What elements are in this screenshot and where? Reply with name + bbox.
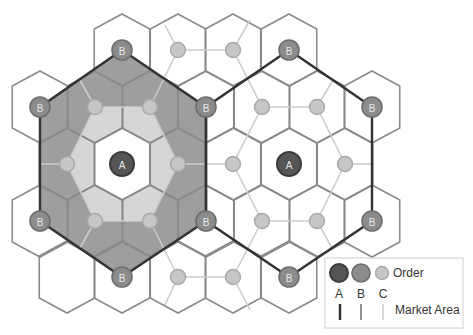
order-b-circle: B (279, 40, 299, 60)
order-c-circle (226, 43, 241, 58)
legend-level-b: B (357, 287, 365, 301)
order-b-circle: B (112, 40, 132, 60)
svg-text:B: B (119, 273, 126, 284)
svg-text:B: B (37, 103, 44, 114)
svg-text:B: B (37, 217, 44, 228)
central-place-diagram: AABBBBBBBBBB Order A B C Market Area (0, 0, 473, 335)
legend-market-area-label: Market Area (395, 303, 460, 317)
order-c-circle (310, 214, 325, 229)
order-c-circle (60, 157, 75, 172)
market-area-c-line (233, 164, 262, 221)
order-b-circle: B (279, 267, 299, 287)
order-c-circle (143, 214, 158, 229)
order-c-circle (255, 214, 270, 229)
legend: Order A B C Market Area (325, 258, 463, 328)
legend-order-b-icon (352, 264, 370, 282)
order-c-circle (171, 270, 186, 285)
legend-order-a-icon (330, 264, 348, 282)
order-c-circle (226, 157, 241, 172)
legend-level-c: C (379, 287, 388, 301)
order-c-circle (88, 100, 103, 115)
svg-text:B: B (369, 103, 376, 114)
order-c-circle (88, 214, 103, 229)
market-area-c-line (317, 107, 345, 164)
svg-text:B: B (286, 273, 293, 284)
order-c-circle (171, 157, 186, 172)
order-b-circle: B (196, 97, 216, 117)
legend-level-a: A (335, 287, 343, 301)
legend-order-label: Order (393, 266, 424, 280)
order-c-circle (171, 43, 186, 58)
order-a-circle: A (110, 152, 134, 176)
order-a-circle: A (277, 152, 301, 176)
order-b-circle: B (362, 97, 382, 117)
order-b-circle: B (30, 97, 50, 117)
svg-text:B: B (119, 46, 126, 57)
order-c-circle (310, 100, 325, 115)
svg-text:B: B (203, 217, 210, 228)
svg-text:A: A (286, 160, 293, 171)
svg-text:B: B (369, 217, 376, 228)
legend-order-c-icon (376, 267, 389, 280)
order-b-circle: B (362, 211, 382, 231)
market-area-c-line (317, 164, 345, 221)
order-b-circle: B (30, 211, 50, 231)
market-area-c-line (233, 107, 262, 164)
order-c-circle (338, 157, 353, 172)
svg-text:B: B (286, 46, 293, 57)
order-c-circle (226, 270, 241, 285)
svg-text:B: B (203, 103, 210, 114)
svg-text:A: A (119, 160, 126, 171)
order-b-circle: B (112, 267, 132, 287)
order-b-circle: B (196, 211, 216, 231)
order-c-circle (255, 100, 270, 115)
order-c-circle (143, 100, 158, 115)
